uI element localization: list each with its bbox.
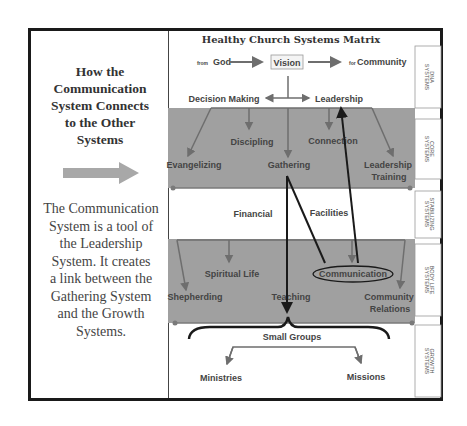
leadership-training-label: Leadership: [364, 160, 413, 170]
from-prefix: from: [197, 60, 209, 66]
side-labels: DNA SYSTEMS CORE SYSTEMS STABILIZING SYS…: [415, 46, 441, 397]
spiritual-life-label: Spiritual Life: [205, 269, 260, 279]
facilities-label: Facilities: [310, 208, 349, 218]
ministries-label: Ministries: [200, 373, 242, 383]
community-label: Community: [357, 57, 407, 67]
side-label-core-sub: SYSTEMS: [424, 136, 430, 163]
teaching-label: Teaching: [272, 292, 311, 302]
side-label-growth-sub: SYSTEMS: [424, 348, 430, 375]
decision-making-label: Decision Making: [188, 94, 259, 104]
gathering-label: Gathering: [268, 160, 311, 170]
side-label-stabilizing-sub: SYSTEMS: [424, 201, 430, 228]
shepherding-label: Shepherding: [167, 292, 222, 302]
financial-label: Financial: [233, 209, 272, 219]
vision-label: Vision: [274, 58, 301, 68]
community-relations-label-2: Relations: [370, 304, 411, 314]
for-prefix: for: [349, 60, 356, 66]
missions-label: Missions: [347, 372, 386, 382]
leadership-label: Leadership: [315, 94, 364, 104]
small-groups-label: Small Groups: [263, 332, 322, 342]
side-label-body-life-sub: SYSTEMS: [424, 267, 430, 294]
evangelizing-label: Evangelizing: [166, 160, 221, 170]
matrix-title: Healthy Church Systems Matrix: [202, 34, 381, 45]
systems-matrix-diagram: Healthy Church Systems Matrix DNA SYSTEM…: [0, 0, 467, 426]
leadership-training-label-2: Training: [371, 172, 406, 182]
discipling-label: Discipling: [230, 137, 273, 147]
side-label-dna-sub: SYSTEMS: [424, 64, 430, 91]
connection-label: Connection: [308, 136, 358, 146]
god-label: God: [213, 57, 231, 67]
communication-label: Communication: [319, 269, 387, 279]
community-relations-label: Community: [364, 292, 414, 302]
